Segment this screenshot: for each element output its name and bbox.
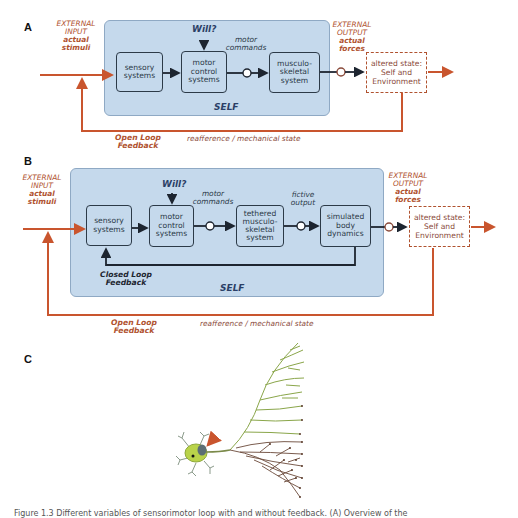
summing-junction-icon bbox=[337, 68, 345, 76]
figure-caption: Figure 1.3 Different variables of sensor… bbox=[14, 509, 407, 518]
summing-junction-icon bbox=[297, 222, 305, 230]
panel-b-connectors bbox=[23, 193, 494, 315]
summing-junction-icon bbox=[243, 69, 251, 77]
panel-a-connectors bbox=[40, 40, 452, 131]
neuron-illustration-icon bbox=[176, 343, 304, 498]
summing-junction-icon bbox=[385, 223, 393, 231]
summing-junction-icon bbox=[206, 222, 214, 230]
